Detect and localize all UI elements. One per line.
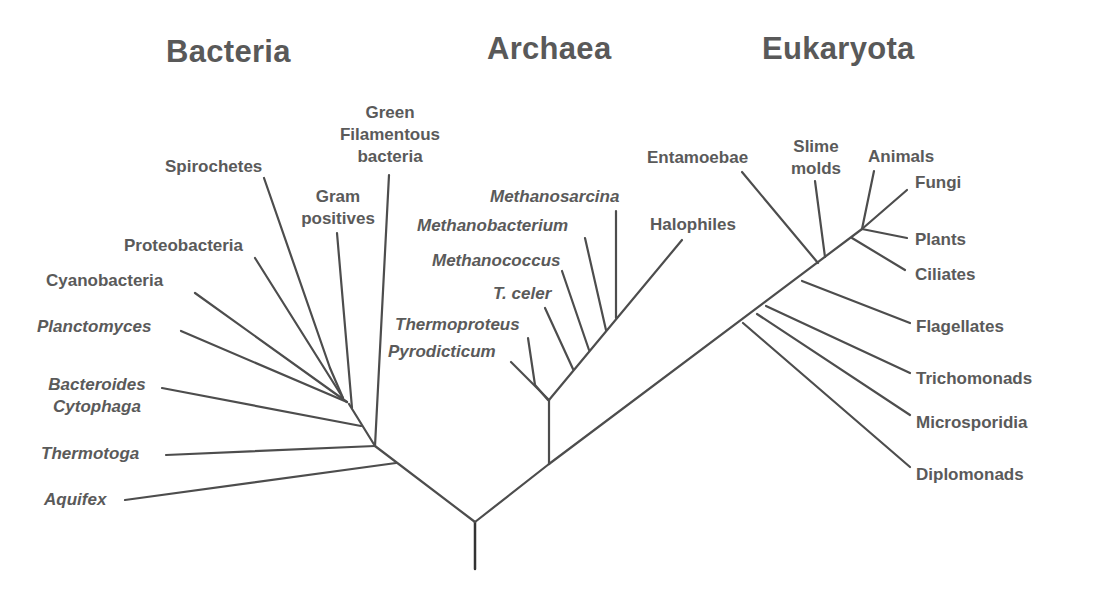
taxon-label-trichomonads: Trichomonads [916, 368, 1032, 390]
branch-t-celer [545, 308, 573, 369]
archaea-euk-trunk [475, 464, 549, 522]
branch-bacteroides [162, 388, 361, 426]
taxon-label-line: Gram [292, 186, 384, 208]
taxon-label-planctomyces: Planctomyces [37, 316, 151, 338]
branch-methanococcus [562, 271, 589, 350]
domain-title-bacteria: Bacteria [166, 34, 291, 70]
taxon-label-thermotoga: Thermotoga [41, 443, 139, 465]
taxon-label-ciliates: Ciliates [915, 264, 975, 286]
taxon-label-slime-molds: Slime molds [781, 136, 851, 180]
branch-ciliates [852, 238, 905, 270]
branch-trichomonads [766, 306, 910, 373]
taxon-label-thermoproteus: Thermoproteus [395, 314, 520, 336]
taxon-label-line: Cytophaga [36, 396, 158, 418]
branch-methanobacterium [585, 238, 606, 330]
branch-pyro-thermo-fork [535, 385, 548, 400]
taxon-label-line: positives [292, 208, 384, 230]
taxon-label-aquifex: Aquifex [44, 489, 106, 511]
domain-title-archaea: Archaea [487, 31, 611, 67]
taxon-label-line: molds [781, 158, 851, 180]
taxon-label-line: Bacteroides [36, 374, 158, 396]
taxon-label-cyanobacteria: Cyanobacteria [46, 270, 163, 292]
taxon-label-flagellates: Flagellates [916, 316, 1004, 338]
taxon-label-plants: Plants [915, 229, 966, 251]
taxon-label-line: Slime [781, 136, 851, 158]
taxon-label-methanococcus: Methanococcus [432, 250, 560, 272]
branch-plants [862, 229, 907, 238]
taxon-label-spirochetes: Spirochetes [165, 156, 262, 178]
taxon-label-fungi: Fungi [915, 172, 961, 194]
taxon-label-bacteroides-cytophaga: Bacteroides Cytophaga [36, 374, 158, 418]
taxon-label-methanobacterium: Methanobacterium [417, 215, 568, 237]
branch-aquifex [125, 463, 396, 500]
branch-thermotoga [166, 446, 375, 455]
taxon-label-proteobacteria: Proteobacteria [124, 235, 243, 257]
branch-entamoebae [742, 172, 818, 263]
branch-thermoproteus [528, 338, 535, 385]
eukaryota-trunk [549, 229, 862, 464]
taxon-label-t-celer: T. celer [493, 283, 551, 305]
taxon-label-entamoebae: Entamoebae [647, 147, 748, 169]
branch-diplomonads [743, 323, 910, 467]
taxon-label-pyrodicticum: Pyrodicticum [388, 341, 496, 363]
bacteria-trunk [375, 446, 475, 522]
taxon-label-line: Green [328, 102, 452, 124]
taxon-label-line: Filamentous [328, 124, 452, 146]
taxon-label-microsporidia: Microsporidia [916, 412, 1027, 434]
taxon-label-halophiles: Halophiles [650, 214, 736, 236]
domain-title-eukaryota: Eukaryota [762, 31, 915, 67]
taxon-label-animals: Animals [868, 146, 934, 168]
taxon-label-methanosarcina: Methanosarcina [490, 186, 619, 208]
branch-flagellates [802, 281, 910, 323]
taxon-label-line: bacteria [328, 146, 452, 168]
branch-gram-positives [337, 233, 352, 408]
taxon-label-green-filamentous: Green Filamentous bacteria [328, 102, 452, 168]
branch-slime-molds [815, 181, 825, 257]
taxon-label-diplomonads: Diplomonads [916, 464, 1024, 486]
taxon-label-gram-positives: Gram positives [292, 186, 384, 230]
